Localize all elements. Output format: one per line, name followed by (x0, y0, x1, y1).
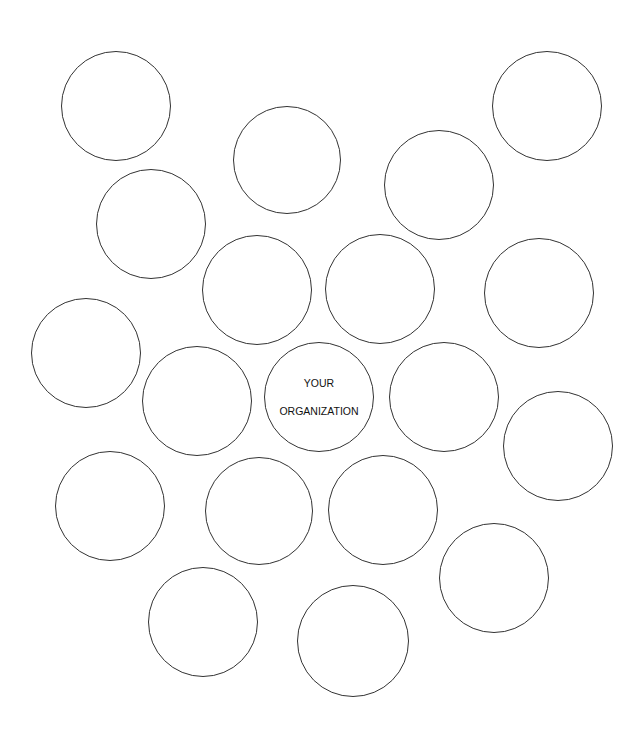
empty-stakeholder-circle (148, 567, 258, 677)
empty-stakeholder-circle (328, 455, 438, 565)
empty-stakeholder-circle (325, 234, 435, 344)
empty-stakeholder-circle (384, 130, 494, 240)
center-organization-circle: YOUR ORGANIZATION (264, 342, 374, 452)
empty-stakeholder-circle (205, 457, 313, 565)
empty-stakeholder-circle (233, 106, 341, 214)
empty-stakeholder-circle (61, 51, 171, 161)
empty-stakeholder-circle (297, 585, 409, 697)
empty-stakeholder-circle (439, 523, 549, 633)
center-label-your: YOUR (304, 378, 334, 389)
empty-stakeholder-circle (202, 235, 312, 345)
empty-stakeholder-circle (492, 51, 602, 161)
center-label-organization: ORGANIZATION (279, 406, 358, 417)
empty-stakeholder-circle (142, 346, 252, 456)
empty-stakeholder-circle (484, 238, 594, 348)
empty-stakeholder-circle (389, 342, 499, 452)
empty-stakeholder-circle (96, 169, 206, 279)
empty-stakeholder-circle (55, 451, 165, 561)
empty-stakeholder-circle (503, 391, 613, 501)
empty-stakeholder-circle (31, 298, 141, 408)
